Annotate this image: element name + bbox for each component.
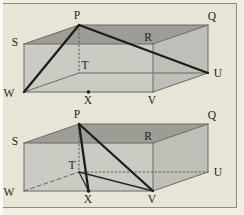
lower-prism-figure: PQSRTUWXV	[4, 108, 223, 205]
vertex-label-U: U	[214, 166, 223, 178]
vertex-label-R: R	[144, 31, 152, 43]
vertex-label-S: S	[12, 36, 18, 48]
vertex-label-V: V	[148, 193, 157, 205]
vertex-label-P: P	[74, 108, 80, 120]
upper-prism-figure: PQSRTUWXV	[4, 9, 223, 106]
vertex-label-V: V	[148, 94, 157, 106]
vertex-label-W: W	[4, 87, 15, 99]
textbook-figure-panel: PQSRTUWXVPQSRTUWXV	[0, 0, 244, 215]
vertex-label-X: X	[84, 193, 93, 205]
vertex-label-R: R	[144, 130, 152, 142]
geometry-svg: PQSRTUWXVPQSRTUWXV	[0, 0, 244, 215]
vertex-label-X: X	[84, 94, 93, 106]
vertex-label-S: S	[12, 135, 18, 147]
vertex-label-T: T	[81, 59, 88, 71]
vertex-label-P: P	[74, 9, 80, 21]
vertex-label-Q: Q	[208, 10, 217, 22]
vertex-label-T: T	[68, 159, 75, 171]
vertex-label-W: W	[4, 186, 15, 198]
vertex-label-Q: Q	[208, 109, 217, 121]
vertex-label-U: U	[214, 67, 223, 79]
